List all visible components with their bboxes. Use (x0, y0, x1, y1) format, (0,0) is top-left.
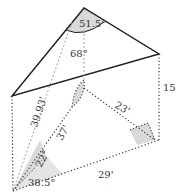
left-vertical-dotted (12, 96, 13, 191)
leaf-shade (72, 80, 84, 107)
right-angle-shade (130, 123, 155, 145)
angle-lower-label: 38.5° (28, 177, 55, 188)
slant-label: 39.93' (28, 95, 48, 128)
inner-edge-label: 37' (54, 123, 71, 142)
base-edge-label: 29' (98, 169, 113, 180)
apex-angle-label: 51.5° (79, 18, 106, 29)
height-label: 15' (163, 82, 176, 93)
right-edge-dotted (84, 88, 155, 140)
geometry-diagram: 51.5° 68° 15' 39.93' 37' 23' 29' 22° 38.… (0, 0, 176, 194)
right-edge-label: 23' (113, 99, 132, 116)
inner-angle-label: 68° (70, 48, 88, 59)
